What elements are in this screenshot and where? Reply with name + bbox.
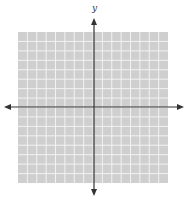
y-axis-label: y (92, 3, 97, 13)
y-axis-up-arrow-icon (91, 18, 97, 25)
y-axis-down-arrow-icon (91, 189, 97, 196)
x-axis-right-arrow-icon (177, 104, 184, 110)
coordinate-plane (0, 0, 188, 199)
x-axis-left-arrow-icon (4, 104, 11, 110)
